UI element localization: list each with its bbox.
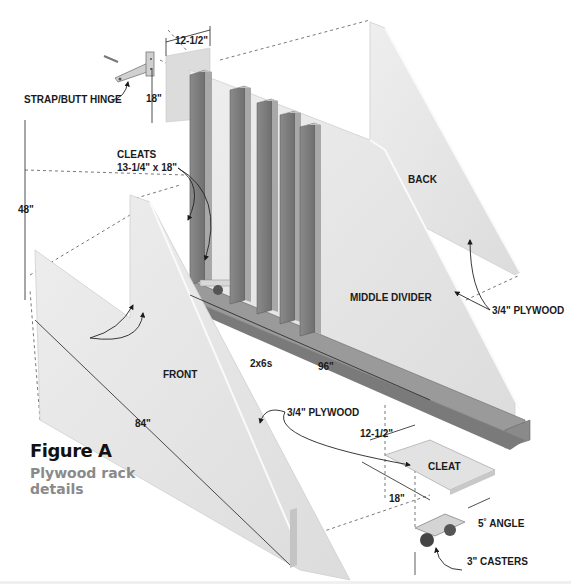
label-casters: 3" CASTERS [467,556,528,567]
label-depth-84: 84" [135,418,151,429]
figure-title: Figure A [30,440,111,461]
label-cleats-size: 13-1/4" x 18" [117,162,177,173]
label-2x6s: 2x6s [250,358,273,369]
label-strap-butt-hinge: STRAP/BUTT HINGE [24,94,122,105]
label-back: BACK [408,174,438,185]
label-cleats-title: CLEATS [117,149,157,160]
strap-hinge-icon [104,52,154,82]
label-plywood-front: 3/4" PLYWOOD [287,407,359,418]
label-height-48: 48" [18,204,34,215]
label-plywood-back: 3/4" PLYWOOD [492,305,564,316]
label-front: FRONT [163,369,197,380]
label-middle-divider: MIDDLE DIVIDER [350,292,432,303]
label-hinge-height: 18" [146,93,162,104]
casters-icon [415,514,465,575]
figure-subtitle: Plywood rack details [30,465,140,497]
label-cleat: CLEAT [428,461,461,472]
label-length-96: 96" [318,361,334,372]
label-cleat-length: 18" [389,493,405,504]
label-cleat-width: 12-1/2" [360,428,393,439]
label-angle: 5˚ ANGLE [478,518,525,529]
label-hinge-width: 12-1/2" [175,35,208,46]
